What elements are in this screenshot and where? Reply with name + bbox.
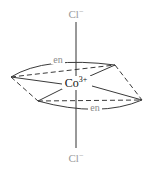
edge-back-right-dashed [115, 65, 142, 100]
ligand-en-back: en [53, 54, 62, 65]
edge-front-right-dashed [38, 100, 142, 101]
octahedral-complex-diagram: Cl− Cl− en en Co3+ [0, 0, 152, 175]
ligand-top-cl: Cl− [69, 7, 84, 20]
ligand-bottom-cl: Cl− [69, 151, 84, 164]
edge-left-back-dashed [11, 65, 115, 77]
en-chelate-back-arc [11, 62, 115, 77]
ligand-en-front: en [90, 102, 99, 113]
